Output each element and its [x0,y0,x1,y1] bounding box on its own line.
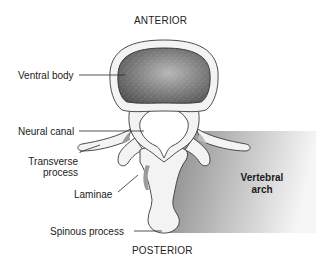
arch-label-line1: Vertebral [232,172,292,184]
vertebra-diagram: ANTERIOR POSTERIOR Ventral body Neural c… [0,0,331,260]
anterior-label: ANTERIOR [134,15,187,26]
label-ventral-body: Ventral body [18,70,74,81]
ventral-body [110,40,218,112]
label-neural-canal: Neural canal [18,126,74,137]
label-transverse-line1: Transverse [24,156,78,167]
leader-laminae [118,175,138,192]
arch-label-line2: arch [232,184,292,196]
vertebral-arch-label: Vertebral arch [232,172,292,196]
label-transverse-process: Transverse process [24,156,78,178]
label-spinous-process: Spinous process [50,226,124,237]
posterior-label: POSTERIOR [132,245,193,256]
label-transverse-line2: process [24,167,78,178]
label-laminae: Laminae [74,189,112,200]
